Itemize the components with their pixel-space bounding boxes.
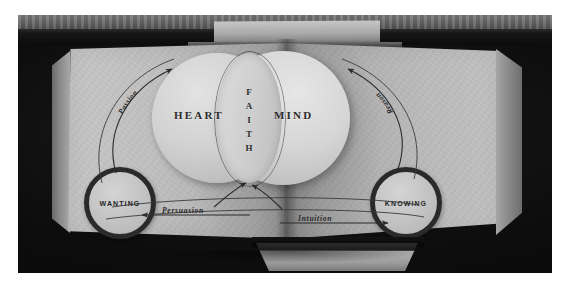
venn-diagram: HEART MIND F A I T H WANTING KNOWING — [66, 37, 506, 249]
bottom-guide-curve — [112, 198, 418, 207]
bottom-guide-curve-2 — [106, 210, 424, 219]
converge-left-arrow — [214, 183, 246, 207]
reason-arc — [348, 69, 402, 169]
intuition-label: Intuition — [297, 214, 332, 223]
persuasion-label: Persuasion — [162, 206, 204, 215]
photograph: HEART MIND F A I T H WANTING KNOWING — [18, 15, 552, 273]
photo-white-mat: HEART MIND F A I T H WANTING KNOWING — [0, 0, 572, 290]
passion-outer-guide — [99, 59, 174, 183]
floor-shadow — [138, 251, 438, 267]
reason-outer-guide — [342, 59, 417, 179]
passion-arc — [113, 69, 172, 173]
passion-label: Passion — [116, 88, 139, 115]
reason-label: Reason — [373, 91, 395, 117]
open-book: HEART MIND F A I T H WANTING KNOWING — [66, 37, 506, 249]
converge-right-arrow — [252, 185, 282, 209]
arrow-overlay: Passion Reason Persuasion Intuit — [66, 37, 506, 249]
